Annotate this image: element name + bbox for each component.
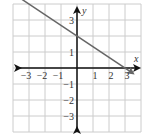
x-tick-label: 3 bbox=[125, 70, 130, 81]
y-tick-label: −3 bbox=[63, 111, 74, 122]
x-tick-label: 2 bbox=[109, 70, 114, 81]
y-tick-label: 3 bbox=[69, 15, 74, 26]
x-tick-labels: −3−2−1123 bbox=[21, 70, 130, 81]
y-axis-label: y bbox=[81, 5, 87, 16]
y-tick-label: −1 bbox=[63, 79, 74, 90]
y-tick-label: 1 bbox=[69, 47, 74, 58]
x-tick-label: −2 bbox=[37, 70, 48, 81]
x-axis-label: x bbox=[133, 53, 139, 64]
y-tick-label: −2 bbox=[63, 95, 74, 106]
x-tick-label: −3 bbox=[21, 70, 32, 81]
x-tick-label: −1 bbox=[53, 70, 64, 81]
x-tick-label: 1 bbox=[93, 70, 98, 81]
coordinate-graph: x y −3−2−1123 31−1−2−3 bbox=[0, 0, 151, 139]
